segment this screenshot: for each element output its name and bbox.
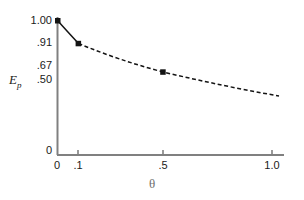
chart-figure: 1.00 .91 .67 .50 0 Ep 0 .1 .5 1.0 θ (0, 0, 304, 200)
x-tick-label-0.5: .5 (149, 160, 177, 171)
x-axis-title: θ (140, 177, 164, 190)
data-point-marker (55, 18, 61, 24)
x-tick-label-1.0: 1.0 (258, 160, 286, 171)
curve-solid-segment (58, 21, 79, 44)
data-point-marker (160, 69, 166, 75)
curve-dashed-segment (79, 44, 280, 97)
y-axis-title: Ep (9, 73, 21, 90)
y-tick-label-0.67: .67 (8, 60, 52, 71)
x-tick-label-0.1: .1 (64, 160, 92, 171)
y-axis-title-subscript: p (17, 80, 22, 90)
y-tick-label-0: 0 (8, 145, 52, 156)
y-tick-label-1.00: 1.00 (8, 15, 52, 26)
y-tick-label-0.91: .91 (8, 37, 52, 48)
data-point-marker (76, 41, 82, 47)
y-axis-title-base: E (9, 72, 17, 87)
